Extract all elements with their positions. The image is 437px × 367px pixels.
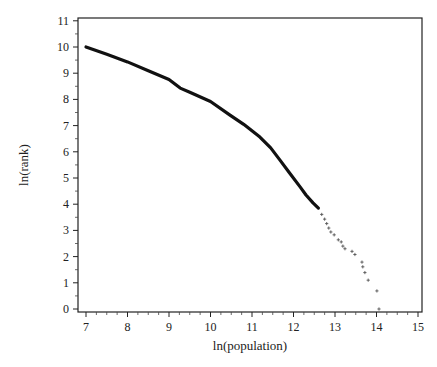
y-tick-label: 8 [63, 92, 69, 106]
x-tick-label: 7 [83, 320, 89, 334]
chart-canvas: 01234567891011 789101112131415 ln(popula… [0, 0, 437, 367]
y-axis-label: ln(rank) [16, 144, 31, 186]
x-axis-label: ln(population) [213, 338, 287, 353]
x-tick-label: 14 [371, 320, 383, 334]
y-tick-label: 4 [63, 197, 69, 211]
y-tick-label: 3 [63, 223, 69, 237]
x-axis: 789101112131415 [83, 312, 424, 334]
y-axis: 01234567891011 [57, 14, 78, 316]
y-tick-label: 2 [63, 250, 69, 264]
y-tick-label: 1 [63, 276, 69, 290]
x-tick-label: 8 [125, 320, 131, 334]
y-tick-label: 7 [63, 119, 69, 133]
x-tick-label: 12 [288, 320, 300, 334]
x-tick-label: 9 [166, 320, 172, 334]
y-tick-label: 11 [57, 14, 69, 28]
y-tick-label: 10 [57, 40, 69, 54]
y-tick-label: 9 [63, 66, 69, 80]
x-tick-label: 10 [205, 320, 217, 334]
y-tick-label: 5 [63, 171, 69, 185]
y-tick-label: 6 [63, 145, 69, 159]
x-tick-label: 15 [412, 320, 424, 334]
x-tick-label: 13 [329, 320, 341, 334]
y-tick-label: 0 [63, 302, 69, 316]
x-tick-label: 11 [246, 320, 258, 334]
